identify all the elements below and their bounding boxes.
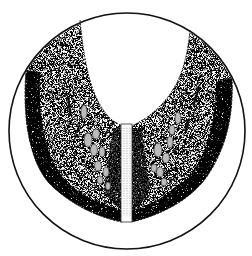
illustration <box>0 0 252 256</box>
illustration-svg <box>0 0 252 256</box>
central-septum <box>121 124 132 222</box>
